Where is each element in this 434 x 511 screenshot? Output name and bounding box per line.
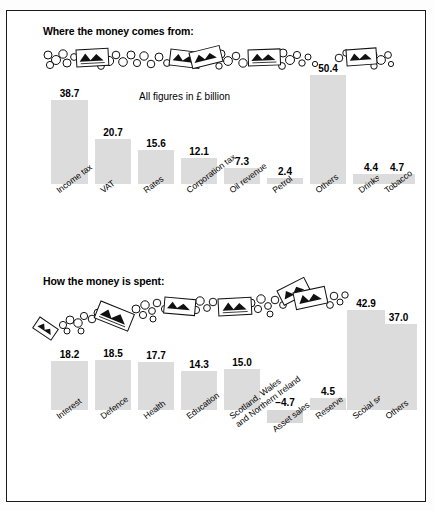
bar-value-scotland-wales-ni: 15.0 <box>224 357 260 368</box>
plot-spending: 18.2 Interest 18.5 Defence 17.7 Health 1… <box>7 11 427 503</box>
bar-value-education: 14.3 <box>181 359 217 370</box>
bar-value-social-security: 42.9 <box>347 298 385 309</box>
figure-frame: Where the money comes from: All figures … <box>6 10 426 502</box>
bar-others-spending[interactable] <box>380 324 417 410</box>
bar-value-defence: 18.5 <box>95 348 131 359</box>
figure-page: Where the money comes from: All figures … <box>0 0 434 511</box>
bar-value-interest: 18.2 <box>51 349 88 360</box>
bar-value-health: 17.7 <box>138 350 174 361</box>
bar-value-others-spending: 37.0 <box>380 312 417 323</box>
